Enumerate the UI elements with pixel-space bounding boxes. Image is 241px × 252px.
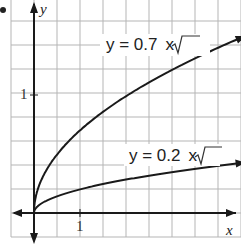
equation-label-lower: y = 0.2x xyxy=(129,146,197,166)
y-axis-up-arrow-icon xyxy=(30,2,38,13)
equation-label-upper: y = 0.7x xyxy=(106,35,174,55)
y-axis-label: y xyxy=(40,1,47,18)
equation-lower-radicand: x xyxy=(189,146,198,165)
equation-upper-radicand: x xyxy=(166,35,175,54)
x-axis-right-arrow-icon xyxy=(226,209,236,217)
curve-0.7-sqrt-x xyxy=(34,39,239,213)
x-axis-left-arrow-icon xyxy=(12,209,22,217)
equation-upper-lhs: y = 0.7 xyxy=(106,35,158,54)
y-tick-label-1: 1 xyxy=(20,86,28,103)
equation-lower-lhs: y = 0.2 xyxy=(129,146,181,165)
x-axis-label: x xyxy=(226,222,233,239)
x-axis xyxy=(12,209,236,217)
curve-0.2-sqrt-x xyxy=(34,163,239,213)
x-tick-label-1: 1 xyxy=(76,218,84,235)
curve-lower-arrow-icon xyxy=(235,160,241,168)
y-axis-down-arrow-icon xyxy=(30,233,38,244)
